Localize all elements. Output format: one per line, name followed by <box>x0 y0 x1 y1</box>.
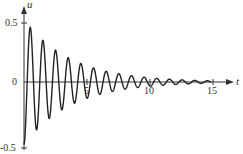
y-axis-label: u <box>27 0 33 10</box>
damped-oscillation-curve <box>24 27 211 144</box>
y-tick-label-neg-0.5: -0.5 <box>0 143 16 153</box>
x-axis-label: t <box>236 76 239 87</box>
y-tick-label-0.5: 0.5 <box>5 18 18 28</box>
plot-area <box>0 0 243 154</box>
x-tick-label-15: 15 <box>207 86 217 96</box>
x-tick-label-5: 5 <box>84 86 89 96</box>
x-axis-arrow-icon <box>226 79 234 85</box>
y-tick-label-0: 0 <box>12 77 17 87</box>
x-tick-label-10: 10 <box>144 86 154 96</box>
